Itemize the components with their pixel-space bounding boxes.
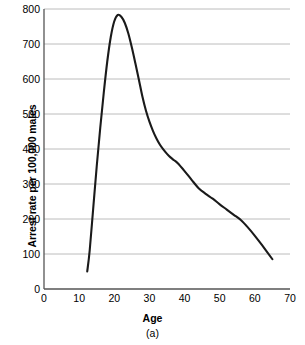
x-axis-title: Age	[0, 312, 305, 324]
data-line-arrest-rate	[87, 15, 272, 272]
x-tick-60: 60	[240, 292, 270, 304]
x-tick-20: 20	[99, 292, 129, 304]
y-tick-800: 800	[6, 3, 40, 15]
x-tick-70: 70	[275, 292, 305, 304]
x-tick-10: 10	[64, 292, 94, 304]
x-axis-tick-labels: 010203040506070	[0, 292, 305, 312]
arrest-rate-by-age-chart: 0100200300400500600700800 01020304050607…	[0, 0, 305, 345]
x-tick-40: 40	[170, 292, 200, 304]
gridlines	[44, 9, 290, 254]
figure-caption: (a)	[0, 327, 305, 339]
y-axis-title: Arrest rate per 100,000 males	[26, 56, 38, 296]
x-tick-30: 30	[134, 292, 164, 304]
x-tick-50: 50	[205, 292, 235, 304]
y-tick-700: 700	[6, 38, 40, 50]
